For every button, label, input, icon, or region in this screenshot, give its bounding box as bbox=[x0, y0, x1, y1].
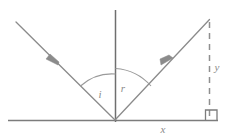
incident-ray bbox=[16, 22, 115, 120]
figure-canvas: i r y x bbox=[0, 0, 232, 139]
horizontal-distance-label: x bbox=[161, 124, 166, 135]
incident-ray-arrowhead bbox=[46, 54, 59, 65]
vertical-distance-label: y bbox=[215, 62, 220, 73]
diagram-svg bbox=[0, 0, 232, 139]
reflected-ray bbox=[115, 20, 210, 121]
angle-reflection-label: r bbox=[121, 83, 125, 94]
right-angle-square bbox=[206, 110, 218, 120]
angle-incidence-label: i bbox=[98, 89, 101, 100]
angle-arc-i bbox=[81, 74, 116, 86]
